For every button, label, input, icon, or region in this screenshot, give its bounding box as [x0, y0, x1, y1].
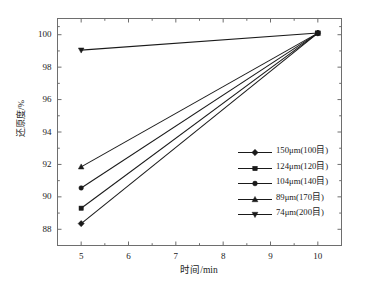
y-tick-label: 100 [27, 30, 52, 39]
x-tick-label: 7 [164, 252, 188, 261]
y-tick-label: 94 [27, 128, 52, 137]
y-tick-label: 92 [27, 160, 52, 169]
legend-item: 74μm(200目) [238, 204, 350, 220]
x-tick-label: 10 [306, 252, 330, 261]
x-tick-label: 8 [211, 252, 235, 261]
y-tick-label: 96 [27, 95, 52, 104]
legend-marker-diamond-icon [238, 144, 272, 155]
x-tick-label: 9 [259, 252, 283, 261]
x-tick-label: 6 [117, 252, 141, 261]
legend-item: 124μm(120目) [238, 158, 350, 174]
legend-marker-triangle-up-icon [238, 191, 272, 202]
y-tick-label: 98 [27, 63, 52, 72]
legend-item: 104μm(140目) [238, 173, 350, 189]
x-axis-title: 时间/min [57, 262, 341, 276]
data-series [78, 31, 320, 53]
x-tick-label: 5 [69, 252, 93, 261]
legend-marker-circle-icon [238, 175, 272, 186]
legend-item: 150μm(100目) [238, 142, 350, 158]
legend-label: 124μm(120目) [276, 159, 328, 172]
legend-marker-square-icon [238, 160, 272, 171]
legend-label: 74μm(200目) [276, 205, 324, 218]
legend-label: 150μm(100目) [276, 143, 328, 156]
y-axis-title: 还原度/% [14, 81, 27, 157]
chart-container: 还原度/% 时间/min 889092949698100 5678910 150… [0, 0, 368, 292]
chart-legend: 150μm(100目)124μm(120目)104μm(140目)89μm(17… [238, 142, 350, 220]
legend-item: 89μm(170目) [238, 189, 350, 205]
legend-label: 89μm(170目) [276, 190, 324, 203]
y-tick-label: 88 [27, 225, 52, 234]
y-tick-label: 90 [27, 192, 52, 201]
legend-marker-triangle-down-icon [238, 206, 272, 217]
legend-label: 104μm(140目) [276, 174, 328, 187]
